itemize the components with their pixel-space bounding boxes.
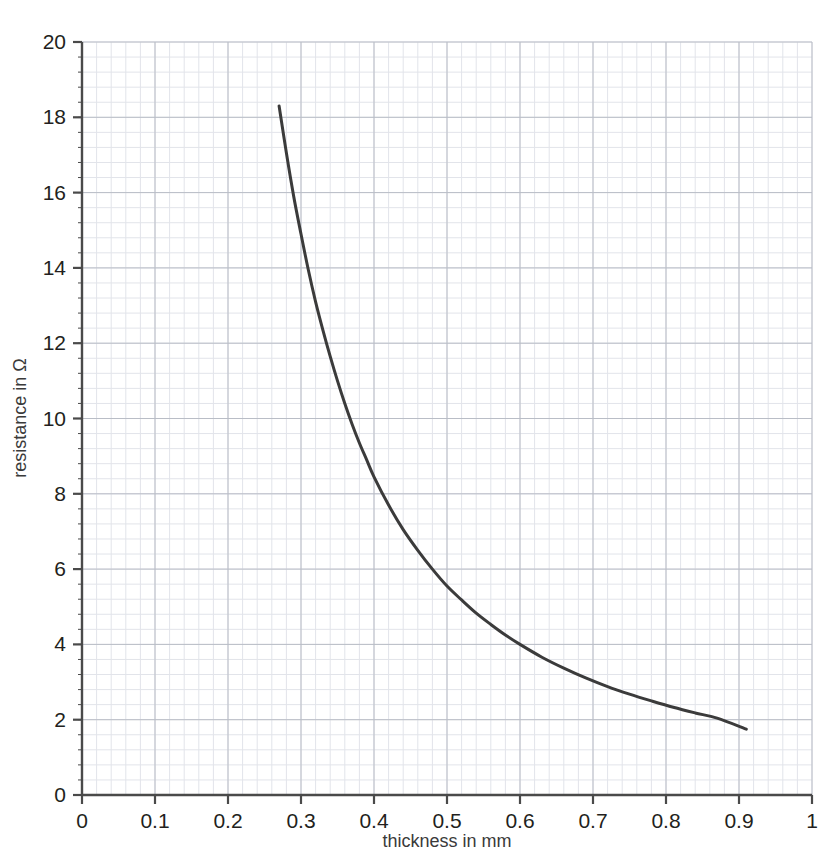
svg-text:4: 4 bbox=[54, 632, 66, 655]
x-axis-title: thickness in mm bbox=[382, 831, 511, 851]
svg-text:0.1: 0.1 bbox=[140, 809, 169, 832]
svg-text:16: 16 bbox=[43, 181, 66, 204]
svg-text:14: 14 bbox=[43, 256, 67, 279]
svg-text:10: 10 bbox=[43, 407, 66, 430]
svg-text:6: 6 bbox=[54, 557, 66, 580]
svg-text:0.4: 0.4 bbox=[359, 809, 389, 832]
svg-text:0: 0 bbox=[54, 783, 66, 806]
svg-text:18: 18 bbox=[43, 105, 66, 128]
svg-text:8: 8 bbox=[54, 482, 66, 505]
svg-text:0: 0 bbox=[76, 809, 88, 832]
chart-figure: 00.10.20.30.40.50.60.70.80.91 0246810121… bbox=[0, 0, 829, 860]
svg-text:0.9: 0.9 bbox=[724, 809, 753, 832]
y-axis-title: resistance in Ω bbox=[10, 358, 30, 478]
svg-text:1: 1 bbox=[806, 809, 818, 832]
svg-text:12: 12 bbox=[43, 331, 66, 354]
svg-text:2: 2 bbox=[54, 708, 66, 731]
svg-text:0.8: 0.8 bbox=[651, 809, 680, 832]
svg-text:0.6: 0.6 bbox=[505, 809, 534, 832]
resistance-vs-thickness-chart: 00.10.20.30.40.50.60.70.80.91 0246810121… bbox=[0, 0, 829, 860]
svg-text:0.7: 0.7 bbox=[578, 809, 607, 832]
svg-text:0.5: 0.5 bbox=[432, 809, 461, 832]
svg-text:0.2: 0.2 bbox=[213, 809, 242, 832]
chart-background bbox=[0, 0, 829, 860]
svg-text:0.3: 0.3 bbox=[286, 809, 315, 832]
svg-text:20: 20 bbox=[43, 30, 66, 53]
